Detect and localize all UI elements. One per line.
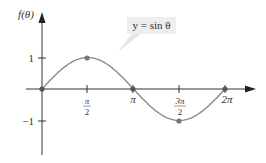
y-axis-title: f(θ) (18, 8, 34, 21)
y-tick-label-neg1: −1 (22, 115, 34, 127)
x-tick-label-3pi-half-den: 2 (178, 107, 183, 117)
x-tick-label-pi: π (130, 93, 136, 105)
sine-chart: y = sin θ f(θ) 1 −1 π 2 π 3π 2 2π (0, 0, 266, 163)
y-axis-arrow-icon (39, 12, 46, 23)
data-point-pi (130, 86, 135, 91)
x-tick-label-3pi-half-num: 3π (174, 96, 185, 106)
y-tick-label-1: 1 (29, 52, 35, 64)
x-tick-label-pi-half-num: π (85, 96, 90, 106)
x-tick-label-2pi: 2π (221, 93, 233, 105)
data-point-2pi (222, 86, 227, 91)
data-point-3pi-half (176, 118, 181, 123)
legend-label: y = sin θ (132, 19, 170, 31)
x-axis-arrow-icon (245, 86, 256, 93)
legend-callout-pointer (118, 33, 142, 52)
x-tick-label-pi-half-den: 2 (85, 107, 90, 117)
data-point-0 (39, 86, 44, 91)
data-point-pi-half (84, 55, 89, 60)
